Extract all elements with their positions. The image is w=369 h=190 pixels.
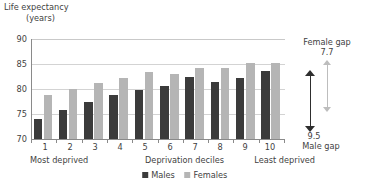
bar-series-container — [32, 39, 285, 139]
bar-group-2 — [57, 39, 82, 139]
bar-group-10 — [260, 39, 285, 139]
bar-females-5 — [145, 72, 154, 139]
legend-label-females: Females — [193, 170, 227, 180]
bar-group-1 — [32, 39, 57, 139]
x-tick-2 — [82, 139, 83, 143]
bar-females-10 — [271, 63, 280, 140]
x-label-5: 5 — [142, 142, 147, 152]
x-tick-1 — [56, 139, 57, 143]
x-label-8: 8 — [217, 142, 222, 152]
bar-males-10 — [261, 71, 270, 139]
x-label-4: 4 — [117, 142, 122, 152]
y-tick-90: 90 — [17, 34, 27, 44]
x-tick-6 — [183, 139, 184, 143]
bar-males-3 — [84, 102, 93, 139]
caption-most-deprived: Most deprived — [30, 155, 88, 165]
bar-females-1 — [44, 95, 53, 139]
bar-females-9 — [246, 63, 255, 139]
bar-group-9 — [234, 39, 259, 139]
y-tick-85: 85 — [17, 59, 27, 69]
legend-item-males: Males — [142, 170, 175, 180]
bar-males-4 — [109, 95, 118, 139]
bar-females-6 — [170, 74, 179, 139]
y-tick-75: 75 — [17, 109, 27, 119]
caption-least-deprived: Least deprived — [254, 155, 315, 165]
bar-group-7 — [184, 39, 209, 139]
y-tick-80: 80 — [17, 84, 27, 94]
x-label-10: 10 — [265, 142, 275, 152]
female-gap-arrowhead-up-icon — [323, 60, 331, 65]
legend-swatch-females-icon — [184, 172, 191, 179]
bar-females-3 — [94, 83, 103, 140]
y-axis-labels: 90 85 80 75 70 — [0, 0, 31, 190]
bar-females-7 — [195, 68, 204, 139]
bar-group-6 — [159, 39, 184, 139]
x-label-1: 1 — [42, 142, 47, 152]
x-label-6: 6 — [167, 142, 172, 152]
chart-legend: Males Females — [142, 170, 228, 180]
male-gap-arrow-line — [310, 71, 311, 131]
x-tick-7 — [208, 139, 209, 143]
male-gap-arrow-icon — [304, 71, 316, 131]
bar-males-7 — [185, 77, 194, 140]
x-tick-8 — [233, 139, 234, 143]
x-tick-3 — [107, 139, 108, 143]
life-expectancy-bar-chart: Life expectancy (years) 90 85 80 75 70 1… — [0, 0, 369, 190]
legend-item-females: Females — [184, 170, 227, 180]
female-gap-arrow-line — [327, 61, 328, 111]
plot-area — [31, 39, 285, 140]
bar-females-8 — [221, 68, 230, 139]
x-tick-end — [284, 139, 285, 143]
male-gap-label: Male gap — [288, 141, 354, 151]
x-label-7: 7 — [192, 142, 197, 152]
bar-group-4 — [108, 39, 133, 139]
male-gap-value: 9.5 — [290, 131, 338, 141]
x-tick-5 — [158, 139, 159, 143]
caption-deprivation-deciles: Deprivation deciles — [145, 155, 224, 165]
x-label-3: 3 — [92, 142, 97, 152]
female-gap-value: 7.7 — [289, 47, 365, 57]
y-tick-70: 70 — [17, 134, 27, 144]
female-gap-arrowhead-down-icon — [323, 107, 331, 112]
bar-group-3 — [83, 39, 108, 139]
male-gap-arrowhead-up-icon — [305, 70, 315, 76]
female-gap-arrow-icon — [321, 61, 333, 111]
bar-males-6 — [160, 86, 169, 139]
legend-swatch-males-icon — [142, 172, 149, 179]
bar-group-8 — [209, 39, 234, 139]
legend-label-males: Males — [151, 170, 175, 180]
bar-females-2 — [69, 89, 78, 139]
bar-males-2 — [59, 110, 68, 139]
bar-females-4 — [119, 78, 128, 139]
x-label-2: 2 — [67, 142, 72, 152]
x-tick-0 — [31, 139, 32, 143]
bar-males-5 — [135, 90, 144, 139]
x-tick-4 — [132, 139, 133, 143]
x-label-9: 9 — [242, 142, 247, 152]
bar-males-1 — [34, 119, 43, 140]
bar-group-5 — [133, 39, 158, 139]
x-tick-9 — [259, 139, 260, 143]
female-gap-label: Female gap — [289, 37, 365, 47]
bar-males-9 — [236, 78, 245, 140]
bar-males-8 — [211, 82, 220, 139]
